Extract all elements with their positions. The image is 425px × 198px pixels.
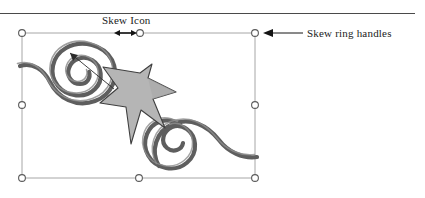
handle-middle-left[interactable] (19, 102, 26, 109)
skew-icon-callout-label: Skew Icon (102, 14, 151, 26)
artwork-group[interactable] (18, 41, 258, 168)
skew-ring-handles-leader-arrow (263, 29, 303, 37)
handle-bottom-left[interactable] (19, 175, 26, 182)
skew-ring-handles-callout-label: Skew ring handles (307, 27, 392, 39)
handle-top-center[interactable] (137, 30, 144, 37)
handle-bottom-center[interactable] (136, 175, 143, 182)
spiral-lower-right (143, 118, 257, 169)
handle-bottom-right[interactable] (252, 175, 259, 182)
handle-middle-right[interactable] (252, 102, 259, 109)
handle-top-left[interactable] (19, 30, 26, 37)
handle-top-right[interactable] (252, 30, 259, 37)
skew-icon[interactable] (114, 30, 137, 36)
spiral-upper-left (18, 41, 116, 103)
figure-canvas: Skew Icon Skew ring handles (0, 0, 425, 198)
